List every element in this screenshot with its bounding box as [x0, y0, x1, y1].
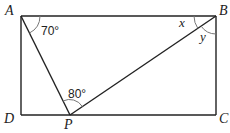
point-label-P: P — [63, 117, 73, 132]
segment-BP — [70, 16, 216, 115]
angle-label-A: 70° — [41, 24, 59, 38]
geometry-diagram: A B C D P 70° 80° x y — [0, 0, 230, 133]
point-label-C: C — [219, 111, 229, 126]
angle-arc-A — [30, 16, 41, 33]
point-label-D: D — [3, 111, 14, 126]
angle-label-y: y — [198, 29, 206, 44]
angle-label-x: x — [178, 15, 185, 30]
point-label-A: A — [4, 3, 14, 18]
angle-arc-B-x — [194, 16, 198, 28]
angle-label-P: 80° — [68, 87, 86, 101]
point-label-B: B — [219, 3, 228, 18]
diagram-canvas: A B C D P 70° 80° x y — [0, 0, 230, 133]
